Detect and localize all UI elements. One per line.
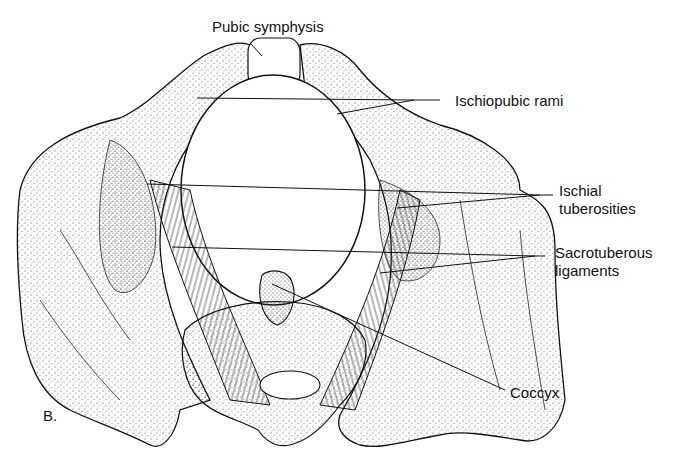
label-sacrotuberous-line2: ligaments [555,262,653,280]
label-sacrotuberous-line1: Sacrotuberous [555,244,653,262]
label-ischiopubic-rami: Ischiopubic rami [455,92,563,110]
pelvis-diagram: Pubic symphysis Ischiopubic rami Ischial… [0,0,674,455]
panel-letter: B. [43,407,57,425]
label-pubic-symphysis: Pubic symphysis [212,18,324,36]
label-sacrotuberous-ligaments: Sacrotuberous ligaments [555,244,653,280]
label-coccyx: Coccyx [510,384,559,402]
pelvis-illustration [0,0,674,455]
label-ischial-line2: tuberosities [559,200,636,218]
label-ischial-line1: Ischial [559,182,636,200]
label-ischial-tuberosities: Ischial tuberosities [559,182,636,218]
